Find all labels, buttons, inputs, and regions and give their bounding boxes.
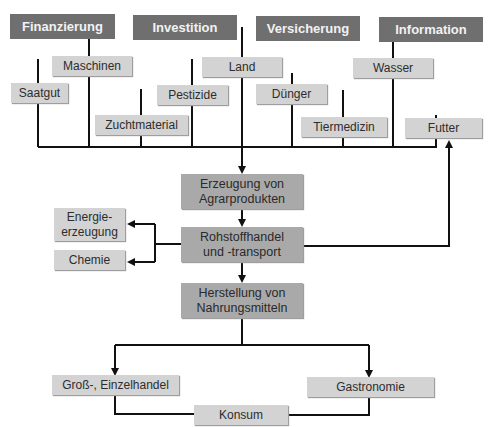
output-energieerzeugung: Energie- erzeugung <box>54 208 125 241</box>
dist-handel: Groß-, Einzelhandel <box>52 375 179 395</box>
category-label: Versicherung <box>267 21 349 36</box>
input-tiermedizin: Tiermedizin <box>301 117 387 137</box>
category-label: Information <box>395 22 467 37</box>
input-land: Land <box>202 57 282 77</box>
chain-herstellung: Herstellung von Nahrungsmitteln <box>181 283 303 318</box>
chain-rohstoffhandel: Rohstoffhandel und -transport <box>181 227 303 262</box>
category-information: Information <box>379 17 483 42</box>
input-futter: Futter <box>405 118 482 138</box>
dist-konsum: Konsum <box>194 405 288 425</box>
input-duenger: Dünger <box>256 84 327 104</box>
input-wasser: Wasser <box>353 58 433 78</box>
energie-line2: erzeugung <box>61 225 118 239</box>
chain-rohstoff-line1: Rohstoffhandel <box>200 230 284 245</box>
output-chemie: Chemie <box>54 250 125 270</box>
input-saatgut: Saatgut <box>11 83 68 103</box>
input-pestizide: Pestizide <box>157 85 228 105</box>
input-zuchtmaterial: Zuchtmaterial <box>95 115 188 135</box>
category-investition: Investition <box>133 15 237 40</box>
chain-erzeugung: Erzeugung von Agrarprodukten <box>181 174 303 209</box>
category-label: Finanzierung <box>22 19 103 34</box>
category-versicherung: Versicherung <box>256 16 360 41</box>
chain-herstellung-label: Herstellung von Nahrungsmitteln <box>187 286 297 316</box>
chain-rohstoff-line2: und -transport <box>203 245 281 260</box>
chain-erzeugung-label: Erzeugung von Agrarprodukten <box>192 177 292 207</box>
input-maschinen: Maschinen <box>52 56 132 76</box>
dist-gastronomie: Gastronomie <box>307 377 434 397</box>
energie-line1: Energie- <box>67 210 112 224</box>
category-finanzierung: Finanzierung <box>10 14 115 39</box>
category-label: Investition <box>152 20 217 35</box>
